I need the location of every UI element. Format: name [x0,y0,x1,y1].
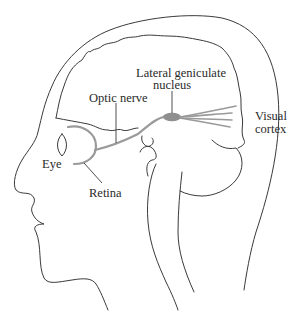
visual-pathway-diagram: Lateral geniculate nucleus Optic nerve V… [0,0,302,324]
brain-base [56,118,138,131]
lgn-body [163,113,181,121]
cerebellum-outline [180,140,242,196]
label-eye: Eye [42,157,62,171]
eye-globe [68,126,96,164]
retina-leader-line [84,163,102,183]
label-visual-cortex-line1: Visual [255,109,287,123]
brain-outline [56,35,245,148]
brainstem-front [147,164,178,310]
label-lgn-line2: nucleus [153,78,191,92]
label-optic-nerve: Optic nerve [89,91,148,105]
label-retina: Retina [89,186,122,200]
eye-lens [58,134,67,156]
brainstem-outline [178,172,194,292]
label-visual-cortex-line2: cortex [255,122,287,136]
optic-nerve-path [95,117,170,150]
